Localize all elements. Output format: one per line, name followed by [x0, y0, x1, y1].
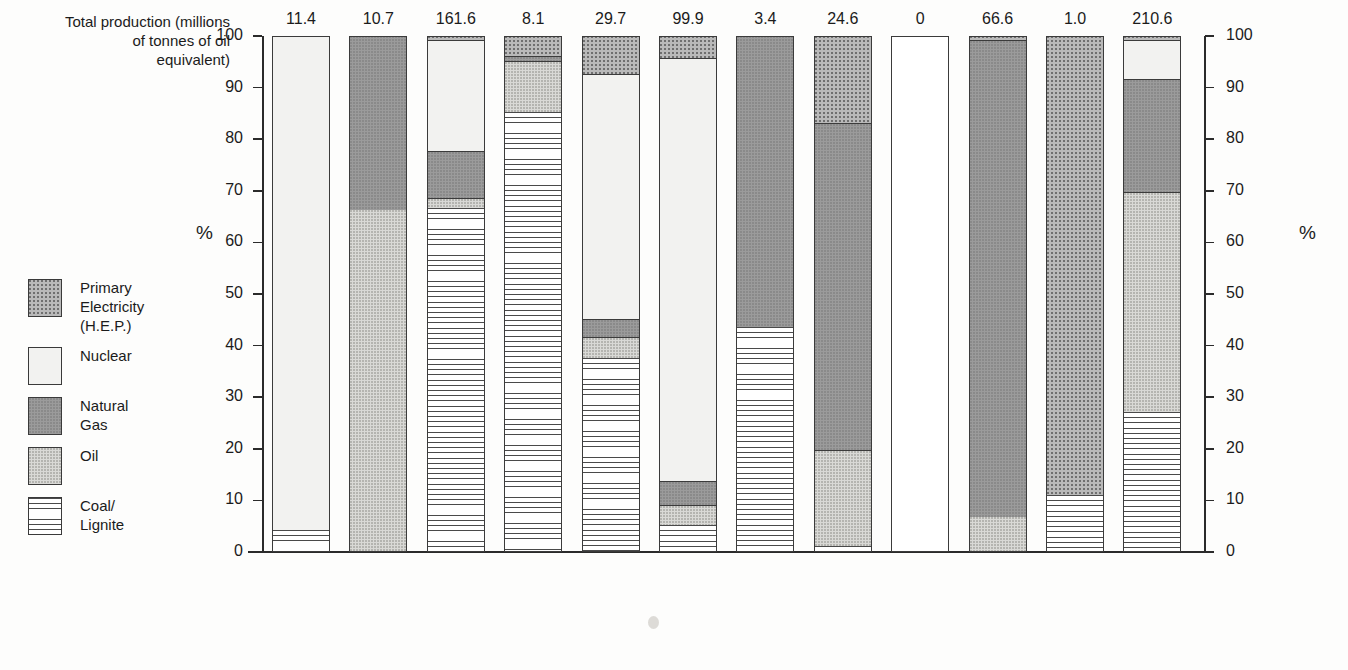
bar-segment[interactable]	[273, 530, 329, 551]
bar-segment[interactable]	[428, 208, 484, 551]
bar-segment[interactable]	[1124, 36, 1180, 40]
tick-label-left-40: 40	[203, 336, 243, 354]
tick-left-60	[253, 242, 262, 244]
stacked-bar[interactable]	[427, 36, 485, 552]
bar-segment[interactable]	[1124, 412, 1180, 551]
tick-label-right-50: 50	[1226, 284, 1266, 302]
bar-segment[interactable]	[1124, 40, 1180, 79]
bar-segment[interactable]	[428, 151, 484, 197]
stacked-bar[interactable]	[891, 36, 949, 552]
legend-label-oil: Oil	[80, 446, 98, 465]
legend-item-nuclear: Nuclear	[28, 346, 218, 385]
bar-segment[interactable]	[505, 56, 561, 61]
bar-segment[interactable]	[660, 58, 716, 481]
tick-left-30	[253, 396, 262, 398]
scan-smudge	[648, 616, 659, 629]
tick-right-60	[1205, 242, 1214, 244]
bar-segment[interactable]	[428, 40, 484, 151]
tick-label-left-80: 80	[203, 129, 243, 147]
legend-item-natural-gas: Natural Gas	[28, 396, 218, 435]
legend-swatch-nuclear-icon	[28, 347, 62, 385]
total-production-label: 24.6	[814, 10, 872, 28]
bar-segment[interactable]	[428, 36, 484, 40]
tick-label-left-20: 20	[203, 439, 243, 457]
bar-segment[interactable]	[1124, 79, 1180, 193]
plot-area: 0010102020303040405050606070708080909010…	[248, 36, 1198, 552]
stacked-bar[interactable]	[814, 36, 872, 552]
bar-segment[interactable]	[505, 112, 561, 551]
bar-segment[interactable]	[970, 517, 1026, 551]
stacked-bar[interactable]	[659, 36, 717, 552]
tick-right-30	[1205, 396, 1214, 398]
bar-segment[interactable]	[815, 36, 871, 123]
stacked-bar[interactable]	[736, 36, 794, 552]
stacked-bar[interactable]	[1046, 36, 1104, 552]
bar-segment[interactable]	[428, 198, 484, 208]
stacked-bar[interactable]	[582, 36, 640, 552]
bar-segment[interactable]	[660, 525, 716, 551]
tick-right-0	[1205, 551, 1214, 553]
bar-segment[interactable]	[737, 327, 793, 551]
tick-right-80	[1205, 138, 1214, 140]
bar-segment[interactable]	[660, 481, 716, 504]
total-production-label: 1.0	[1046, 10, 1104, 28]
tick-label-right-30: 30	[1226, 387, 1266, 405]
stacked-bar[interactable]	[969, 36, 1027, 552]
y-axis-left	[262, 36, 264, 553]
stacked-bar[interactable]	[1123, 36, 1181, 552]
tick-right-90	[1205, 87, 1214, 89]
tick-left-70	[253, 190, 262, 192]
stacked-bar[interactable]	[349, 36, 407, 552]
bar-segment[interactable]	[660, 36, 716, 58]
tick-right-10	[1205, 500, 1214, 502]
legend-item-primary-electricity: Primary Electricity (H.E.P.)	[28, 278, 218, 335]
bar-segment[interactable]	[350, 210, 406, 551]
bar-segment[interactable]	[815, 546, 871, 551]
bar-segment[interactable]	[1047, 36, 1103, 495]
bar-segment[interactable]	[350, 36, 406, 210]
total-production-label: 210.6	[1123, 10, 1181, 28]
stacked-bar[interactable]	[504, 36, 562, 552]
bar-segment[interactable]	[273, 36, 329, 530]
bar-segment[interactable]	[583, 74, 639, 319]
total-production-label: 66.6	[969, 10, 1027, 28]
bar-segment[interactable]	[1047, 495, 1103, 551]
tick-left-100	[253, 35, 262, 37]
tick-label-left-90: 90	[203, 78, 243, 96]
bar-segment[interactable]	[737, 36, 793, 327]
bar-segment[interactable]	[815, 123, 871, 451]
y-axis-unit-right: %	[1299, 222, 1316, 244]
legend: Primary Electricity (H.E.P.) Nuclear Nat…	[28, 278, 218, 546]
bar-segment[interactable]	[970, 40, 1026, 517]
tick-right-40	[1205, 345, 1214, 347]
tick-label-left-70: 70	[203, 181, 243, 199]
tick-label-right-40: 40	[1226, 336, 1266, 354]
bar-segment[interactable]	[583, 36, 639, 74]
tick-label-left-10: 10	[203, 490, 243, 508]
tick-left-80	[253, 138, 262, 140]
tick-right-20	[1205, 448, 1214, 450]
bar-segment[interactable]	[583, 358, 639, 552]
tick-label-left-30: 30	[203, 387, 243, 405]
bar-segment[interactable]	[505, 36, 561, 56]
tick-label-right-70: 70	[1226, 181, 1266, 199]
legend-item-coal-lignite: Coal/ Lignite	[28, 496, 218, 535]
bar-segment[interactable]	[970, 36, 1026, 40]
bar-segment[interactable]	[505, 61, 561, 113]
tick-right-50	[1205, 293, 1214, 295]
legend-swatch-natural-gas-icon	[28, 397, 62, 435]
tick-label-right-20: 20	[1226, 439, 1266, 457]
total-production-label: 161.6	[427, 10, 485, 28]
bar-segment[interactable]	[815, 450, 871, 545]
bar-segment[interactable]	[583, 337, 639, 358]
bar-segment[interactable]	[1124, 192, 1180, 411]
bar-segment[interactable]	[583, 319, 639, 337]
tick-left-0	[253, 551, 262, 553]
tick-label-left-50: 50	[203, 284, 243, 302]
tick-left-40	[253, 345, 262, 347]
tick-label-left-0: 0	[203, 542, 243, 560]
stacked-bar[interactable]	[272, 36, 330, 552]
bar-segment[interactable]	[660, 505, 716, 526]
tick-label-left-60: 60	[203, 232, 243, 250]
legend-label-nuclear: Nuclear	[80, 346, 132, 365]
